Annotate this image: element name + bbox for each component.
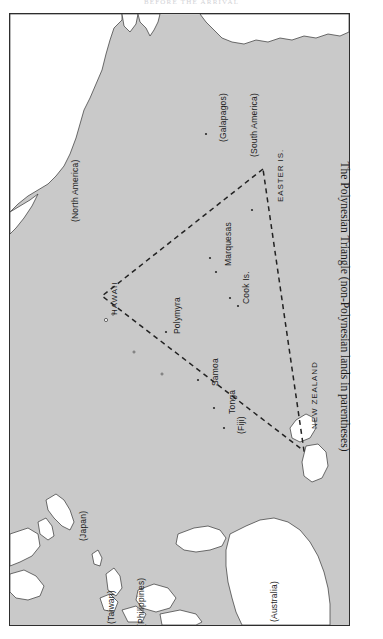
north-america-land [10,14,122,212]
canada-notch [122,14,138,32]
asia-coast-land [10,528,40,566]
map-label-galapagos: (Galapagos) [218,93,228,142]
page-running-head: BEFORE THE ARRIVAL [0,0,383,6]
java-land [160,610,202,625]
map-label-australia: (Australia) [269,581,279,622]
taiwan-land [92,550,102,566]
map-label-cook-is: Cook Is. [241,271,251,304]
map-label-samoa: Samoa [210,358,220,386]
map-label-japan: (Japan) [78,511,88,541]
map-label-polymyra: Polymyra [172,297,182,334]
polynesian-triangle [102,169,304,451]
map-caption: The Polynesian Triangle (non-Polynesian … [334,0,356,613]
map-label-north-america: (North America) [70,159,80,222]
map-label-philippines: (Philippines) [136,578,146,626]
map-label-south-america: (South America) [249,93,259,157]
new-zealand-south-island [302,444,328,482]
hawaii-island [104,318,107,321]
china-coast-land [10,570,44,600]
map-label-easter-is: EASTER IS. [276,149,285,202]
island-speck [133,351,135,353]
island-speck [161,373,163,375]
map-label-fiji: (Fiji) [236,416,246,434]
map-label-marquesas: Marquesas [223,222,233,266]
japan-south-land [38,518,54,540]
new-guinea-land [176,526,226,552]
mexico-land [138,14,160,36]
map-label-taiwan: (Taiwan) [106,590,116,624]
south-america-land [200,14,349,44]
map-label-tonga: Tonga [227,390,237,414]
map-label-hawaii: HAWAII [110,282,119,315]
island-dots-group [165,133,253,429]
map-frame: (North America)(Galapagos)(South America… [9,13,350,626]
map-label-new-zealand: NEW ZEALAND [310,361,319,429]
map-page: BEFORE THE ARRIVAL [0,0,383,639]
